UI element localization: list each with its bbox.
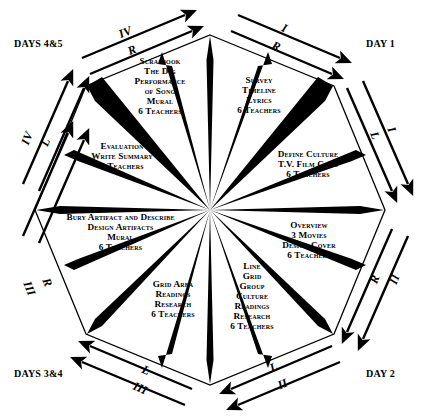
sector-line: 6 Teachers bbox=[126, 310, 220, 320]
corner-label-day-2: DAY 2 bbox=[366, 368, 395, 379]
corner-label-days-3-4: DAYS 3&4 bbox=[14, 368, 63, 379]
sector-text-survey: Survey Timeline Lyrics 6 Teachers bbox=[212, 76, 306, 116]
sector-line: 6 Teachers bbox=[260, 170, 356, 180]
diagram-canvas: DAYS 4&5 DAY 1 DAY 2 DAYS 3&4 IV R I R I… bbox=[0, 0, 431, 419]
sector-text-evaluation: Evaluation Write Summary 6 Teachers bbox=[63, 142, 181, 172]
sector-line: 6 Teachers bbox=[206, 322, 298, 332]
sector-line: 6 Teachers bbox=[262, 251, 356, 261]
rotation-arrows-graphic bbox=[0, 0, 431, 419]
arrow-br-outer bbox=[238, 362, 340, 405]
sector-line: 6 Teachers bbox=[63, 162, 181, 172]
sector-line: 6 Teachers bbox=[45, 243, 196, 253]
sector-text-define-culture: Define Culture T.V. Film Clips 6 Teacher… bbox=[260, 150, 356, 180]
corner-label-days-4-5: DAYS 4&5 bbox=[14, 38, 63, 49]
sector-text-bury-artifact: Bury Artifact and Describe Design Artifa… bbox=[45, 213, 196, 253]
sector-text-scrapbook: Scrapbook The Dig Performance of Song Mu… bbox=[108, 57, 212, 117]
corner-label-day-1: DAY 1 bbox=[366, 38, 395, 49]
sector-text-overview: Overview 3 Movies Design Cover 6 Teacher… bbox=[262, 221, 356, 261]
arrow-tr-inner bbox=[231, 31, 332, 74]
sector-line: 6 Teachers bbox=[212, 106, 306, 116]
sector-line: 6 Teachers bbox=[108, 107, 212, 117]
arrow-rl-outer bbox=[363, 236, 408, 339]
sector-text-grid-area: Grid Area Readings Research 6 Teachers bbox=[126, 280, 220, 320]
